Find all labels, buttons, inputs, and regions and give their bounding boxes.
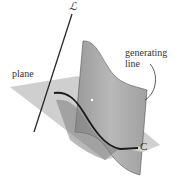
generating-line-label-2: line <box>125 59 140 69</box>
plane-label: plane <box>12 69 34 79</box>
surface-point <box>91 99 93 101</box>
diagram-canvas: ℒ plane generating line C <box>0 0 174 191</box>
line-L-label: ℒ <box>69 1 77 12</box>
cylinder-diagram <box>0 0 174 191</box>
curve-C-label: C <box>140 141 147 152</box>
generating-line-label-1: generating <box>125 48 167 58</box>
